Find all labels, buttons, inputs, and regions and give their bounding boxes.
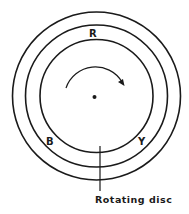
- label-r: R: [89, 28, 97, 39]
- inner-ring: [40, 40, 153, 153]
- caption-rotating-disc: Rotating disc: [95, 194, 172, 205]
- rotation-arrow-arc: [66, 67, 122, 88]
- rotation-arrowhead-icon: [118, 79, 125, 86]
- label-y: Y: [137, 136, 146, 147]
- rotating-disc-diagram: R B Y Rotating disc: [0, 0, 189, 214]
- center-dot: [93, 95, 97, 99]
- label-b: B: [46, 136, 54, 147]
